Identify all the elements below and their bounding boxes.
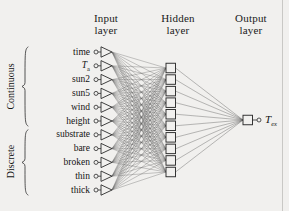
edge-hidden-output <box>176 120 244 172</box>
input-node-circle <box>94 78 98 82</box>
hidden-node-boxes <box>166 63 176 177</box>
input-node-label-text: thin <box>75 171 90 181</box>
edge-hidden-output <box>176 120 244 149</box>
hidden-node-box <box>166 133 176 143</box>
output-node-circle <box>257 118 261 122</box>
edge-hidden-output <box>176 68 244 120</box>
edge-input-hidden <box>112 80 166 115</box>
hidden-node-box <box>166 86 176 96</box>
edge-input-hidden <box>112 172 166 176</box>
hidden-node-box <box>166 156 176 166</box>
input-node-label-text: substrate <box>56 129 90 139</box>
group-label-discrete-text: Discrete <box>5 145 16 178</box>
hidden-node-box <box>166 121 176 130</box>
hidden-node-box <box>166 63 176 73</box>
input-node-circle <box>94 147 98 151</box>
input-node-triangle <box>101 61 112 71</box>
input-node-label-sub: a <box>87 65 90 72</box>
hidden-node-box <box>166 98 176 108</box>
hidden-node-box <box>166 109 176 119</box>
input-node-circle <box>94 119 98 123</box>
input-node-symbols <box>94 47 112 195</box>
input-node-triangle <box>101 116 112 126</box>
input-node-label-text: thick <box>71 185 90 195</box>
group-label-continuous-text: Continuous <box>5 63 16 109</box>
hidden-node-box <box>166 167 176 177</box>
edge-input-hidden <box>112 80 166 177</box>
group-label-continuous: Continuous <box>5 51 16 121</box>
input-node-circle <box>94 188 98 192</box>
input-node-triangle <box>101 143 112 153</box>
input-node-circle <box>94 174 98 178</box>
input-to-hidden-edges <box>112 52 166 190</box>
input-node-label-text: bare <box>74 143 90 153</box>
input-node-triangle <box>101 74 112 84</box>
input-node-circle <box>94 105 98 109</box>
input-node-label-text: height <box>66 116 90 126</box>
input-node-triangle <box>101 88 112 98</box>
input-node-label-text: wind <box>71 102 90 112</box>
edge-hidden-output <box>176 80 244 120</box>
edge-hidden-output <box>176 103 244 120</box>
input-node-label-text: sun5 <box>72 88 90 98</box>
edge-input-hidden <box>112 68 166 93</box>
edge-hidden-output <box>176 120 244 137</box>
edge-input-hidden <box>112 172 166 190</box>
hidden-node-box <box>166 75 176 85</box>
edge-hidden-output <box>176 120 244 160</box>
input-node-circle <box>94 133 98 137</box>
edge-hidden-output <box>176 120 244 126</box>
input-node-triangle <box>101 157 112 167</box>
input-node-label-text: time <box>73 47 90 57</box>
input-node-triangle <box>101 185 112 195</box>
input-node-circle <box>94 50 98 54</box>
input-node-triangle <box>101 130 112 140</box>
edge-hidden-output <box>176 91 244 120</box>
brace-continuous <box>22 47 28 126</box>
input-node-circle <box>94 91 98 95</box>
input-node-label-text: sun2 <box>72 74 90 84</box>
group-label-discrete: Discrete <box>5 131 16 193</box>
output-node-box <box>243 115 253 125</box>
input-node-triangle <box>101 102 112 112</box>
input-node-triangle <box>101 47 112 57</box>
output-node-box <box>243 115 261 125</box>
hidden-node-box <box>166 144 176 154</box>
input-node-label-text: broken <box>64 157 90 167</box>
hidden-to-output-edges <box>176 68 244 172</box>
input-node-triangle <box>101 171 112 181</box>
input-node-circle <box>94 64 98 68</box>
edge-input-hidden <box>112 66 166 68</box>
figure-canvas: Input layer Hidden layer Output layer Te… <box>0 0 289 211</box>
edge-input-hidden <box>112 103 166 177</box>
input-node-circle <box>94 160 98 164</box>
edge-hidden-output <box>176 114 244 120</box>
